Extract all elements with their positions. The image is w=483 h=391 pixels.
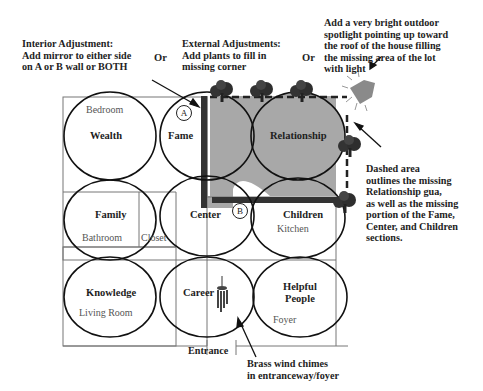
external-adjustment-note: External Adjustments: Add plants to fill… <box>182 38 281 73</box>
dashed-area-note: Dashed area outlines the missing Relatio… <box>366 163 458 244</box>
room-bathroom: Bathroom <box>82 232 122 243</box>
wall-marker-a: A <box>176 105 192 121</box>
room-bedroom: Bedroom <box>86 104 123 115</box>
missing-area-shading <box>207 92 345 208</box>
or-label-1: Or <box>154 52 167 63</box>
gua-career: Career <box>183 287 214 299</box>
wind-chimes-note: Brass wind chimes in entranceway/foyer <box>247 358 339 381</box>
gua-children: Children <box>283 209 323 221</box>
gua-relationship: Relationship <box>270 130 327 142</box>
gua-center: Center <box>190 209 221 221</box>
room-foyer: Foyer <box>273 314 296 325</box>
gua-helpful-people: Helpful People <box>283 281 317 305</box>
room-closet: Closet <box>141 232 167 243</box>
entrance-label: Entrance <box>188 345 228 357</box>
gua-wealth: Wealth <box>90 130 122 142</box>
room-kitchen: Kitchen <box>277 223 309 234</box>
interior-adjustment-note: Interior Adjustment: Add mirror to eithe… <box>22 38 131 73</box>
wind-chimes-icon <box>217 276 228 312</box>
or-label-2: Or <box>302 52 315 63</box>
wall-marker-b: B <box>232 203 248 219</box>
gua-knowledge: Knowledge <box>86 287 136 299</box>
gua-family: Family <box>95 209 127 221</box>
room-living-room: Living Room <box>79 307 133 318</box>
gua-fame: Fame <box>168 130 193 142</box>
spotlight-note: Add a very bright outdoor spotlight poin… <box>324 17 448 75</box>
spotlight-icon <box>342 71 375 111</box>
